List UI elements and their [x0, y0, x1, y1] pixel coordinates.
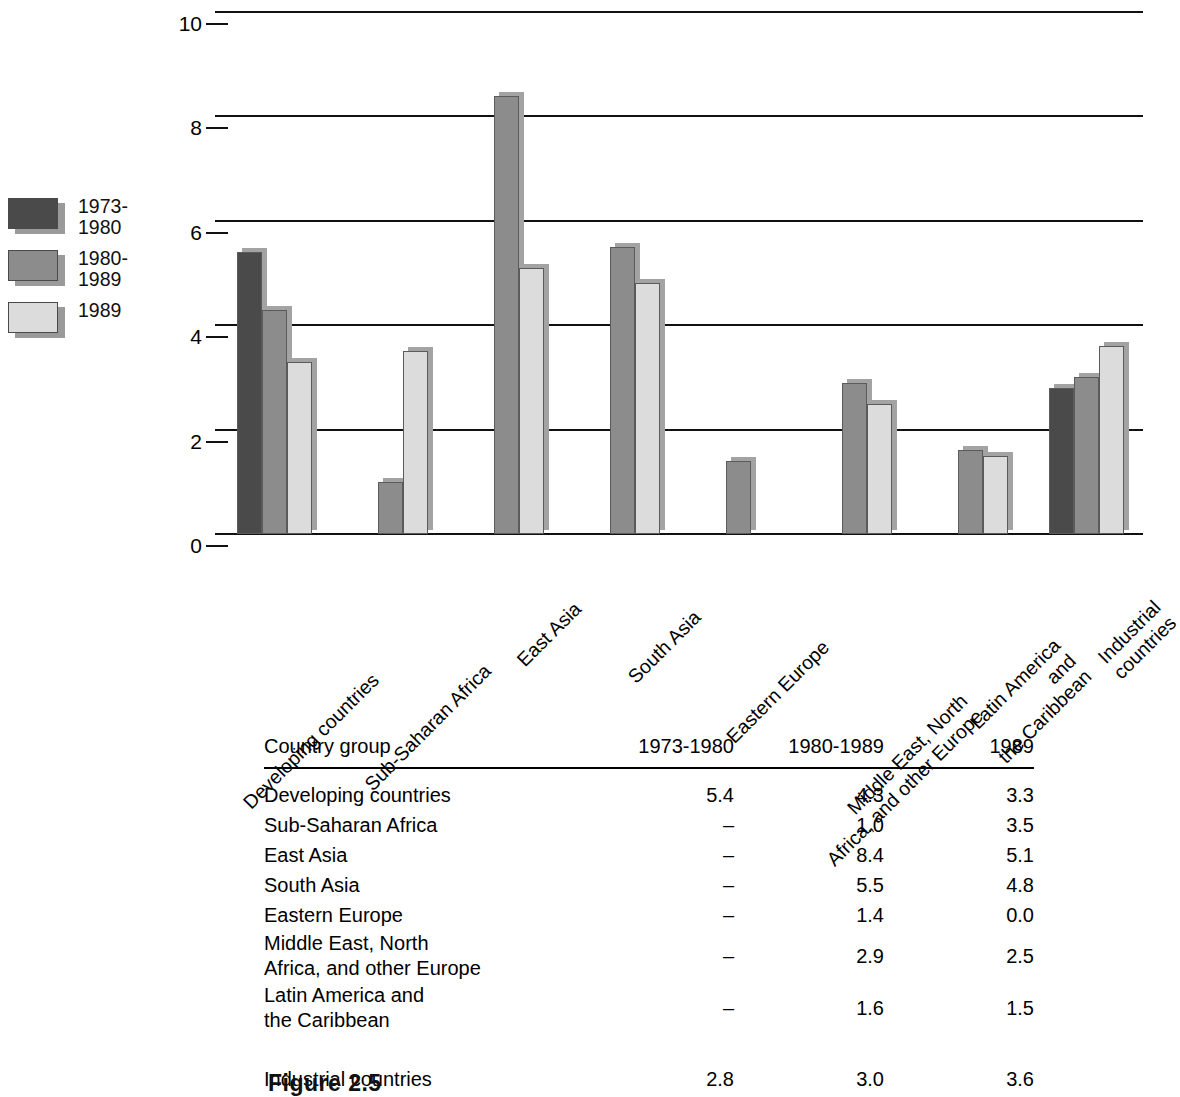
table-cell-value: 2.5 [884, 930, 1034, 982]
table-row: East Asia–8.45.1 [264, 840, 1034, 870]
col-header-1989: 1989 [884, 735, 1034, 768]
table-cell-value: 5.1 [884, 840, 1034, 870]
table-spacer-row [264, 1034, 1034, 1064]
table-cell-value: – [584, 870, 734, 900]
table-cell-value: 3.0 [734, 1064, 884, 1094]
table-cell-country-group: South Asia [264, 870, 584, 900]
table-cell-value: 4.3 [734, 768, 884, 810]
table-cell-value: 2.9 [734, 930, 884, 982]
figure-caption: Figure 2.5 [268, 1070, 382, 1097]
table-cell-country-group: Developing countries [264, 768, 584, 810]
y-axis: 0246810 [0, 12, 1143, 534]
col-header-country-group: Country group [264, 735, 584, 768]
x-axis-labels: Developing countriesSub-Saharan AfricaEa… [0, 534, 1143, 710]
table-cell-value: 1.0 [734, 810, 884, 840]
table-cell-value: 5.4 [584, 768, 734, 810]
table-header-row: Country group 1973-1980 1980-1989 1989 [264, 735, 1034, 768]
table-cell-value: – [584, 930, 734, 982]
tickmark-8 [206, 127, 228, 129]
col-header-1973-1980: 1973-1980 [584, 735, 734, 768]
table-body: Developing countries5.44.33.3Sub-Saharan… [264, 768, 1034, 1094]
tickmark-6 [206, 232, 228, 234]
table-cell-country-group: East Asia [264, 840, 584, 870]
table-cell-country-group: Middle East, North Africa, and other Eur… [264, 930, 584, 982]
x-axis-label: Industrial countries [1093, 596, 1180, 683]
table-row: Eastern Europe–1.40.0 [264, 900, 1034, 930]
data-table-wrapper: Country group 1973-1980 1980-1989 1989 D… [264, 735, 1034, 1094]
table-cell-country-group: Eastern Europe [264, 900, 584, 930]
table-cell-value: 1.6 [734, 982, 884, 1034]
x-axis-label: East Asia [512, 597, 585, 670]
tickmark-4 [206, 336, 228, 338]
col-header-1980-1989: 1980-1989 [734, 735, 884, 768]
data-table: Country group 1973-1980 1980-1989 1989 D… [264, 735, 1034, 1094]
table-cell-country-group: Sub-Saharan Africa [264, 810, 584, 840]
table-spacer-cell [264, 1034, 1034, 1064]
table-cell-value: – [584, 810, 734, 840]
tickmark-10 [206, 23, 228, 25]
table-cell-value: 0.0 [884, 900, 1034, 930]
table-row: Middle East, North Africa, and other Eur… [264, 930, 1034, 982]
table-cell-value: 1.5 [884, 982, 1034, 1034]
table-cell-value: 4.8 [884, 870, 1034, 900]
table-cell-value: 1.4 [734, 900, 884, 930]
table-cell-value: 3.5 [884, 810, 1034, 840]
table-cell-value: 8.4 [734, 840, 884, 870]
x-axis-label: Eastern Europe [722, 636, 833, 747]
table-cell-value: 3.3 [884, 768, 1034, 810]
table-row: South Asia–5.54.8 [264, 870, 1034, 900]
table-cell-value: 3.6 [884, 1064, 1034, 1094]
tickmark-2 [206, 441, 228, 443]
table-cell-value: – [584, 840, 734, 870]
table-cell-value: – [584, 900, 734, 930]
table-head: Country group 1973-1980 1980-1989 1989 [264, 735, 1034, 768]
table-cell-value: 2.8 [584, 1064, 734, 1094]
table-row: Latin America and the Caribbean–1.61.5 [264, 982, 1034, 1034]
table-cell-country-group: Latin America and the Caribbean [264, 982, 584, 1034]
table-cell-value: 5.5 [734, 870, 884, 900]
table-row: Sub-Saharan Africa–1.03.5 [264, 810, 1034, 840]
table-row: Developing countries5.44.33.3 [264, 768, 1034, 810]
bar-chart-figure: 1973- 1980 1980- 1989 1989 0246810 Devel… [0, 0, 1143, 710]
x-axis-label: South Asia [623, 606, 704, 687]
table-cell-value: – [584, 982, 734, 1034]
